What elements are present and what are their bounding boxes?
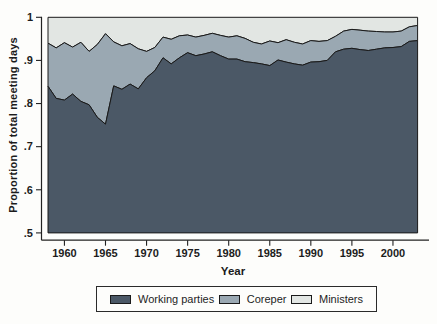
y-tick-label: .9 [24, 54, 33, 66]
chart-plot-area: 1.9.8.7.6.519601965197019751980198519901… [0, 0, 437, 324]
x-tick-label: 1985 [258, 247, 282, 259]
coreper-swatch-icon [219, 295, 240, 304]
stacked-area-figure: 1.9.8.7.6.519601965197019751980198519901… [0, 0, 437, 324]
y-tick-label: .6 [24, 184, 33, 196]
legend: Working parties Coreper Ministers [96, 286, 377, 312]
legend-item-coreper: Coreper [219, 293, 287, 305]
legend-label-coreper: Coreper [247, 293, 287, 305]
ministers-swatch-icon [291, 295, 312, 304]
legend-item-working-parties: Working parties [110, 293, 214, 305]
x-tick-label: 1995 [340, 247, 364, 259]
x-tick-label: 1965 [93, 247, 117, 259]
x-axis-title: Year [221, 265, 245, 277]
legend-label-working-parties: Working parties [138, 293, 214, 305]
legend-item-ministers: Ministers [291, 293, 363, 305]
x-tick-label: 1990 [299, 247, 323, 259]
x-tick-label: 1975 [175, 247, 199, 259]
x-tick-label: 1960 [52, 247, 76, 259]
x-tick-label: 2000 [381, 247, 405, 259]
legend-label-ministers: Ministers [319, 293, 363, 305]
y-tick-label: .8 [24, 97, 33, 109]
working-parties-swatch-icon [110, 295, 131, 304]
x-tick-label: 1970 [134, 247, 158, 259]
y-axis-title: Proportion of total meeting days [7, 37, 19, 213]
y-tick-label: .7 [24, 140, 33, 152]
y-tick-label: .5 [24, 227, 33, 239]
x-tick-label: 1980 [216, 247, 240, 259]
y-tick-label: 1 [27, 11, 33, 23]
